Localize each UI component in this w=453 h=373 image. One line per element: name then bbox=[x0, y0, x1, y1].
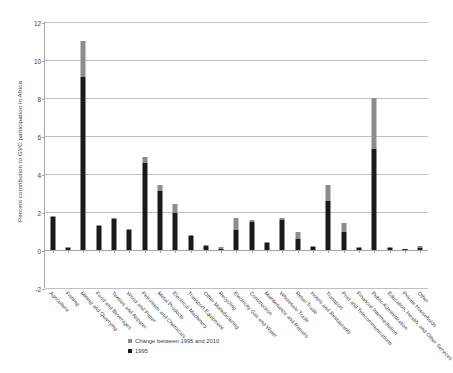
legend-item-change: Change between 1995 and 2010 bbox=[128, 338, 219, 344]
bar-slot bbox=[367, 22, 382, 288]
bar-stack[interactable] bbox=[341, 223, 346, 250]
bar-slot bbox=[321, 22, 336, 288]
bar-stack[interactable] bbox=[326, 185, 331, 250]
x-tick-mark bbox=[359, 250, 360, 253]
bar-slot bbox=[152, 22, 167, 288]
bar-segment-change bbox=[295, 232, 300, 239]
bar-segment-change bbox=[234, 218, 239, 230]
bar-slot bbox=[183, 22, 198, 288]
y-tick-label--2: -2 bbox=[35, 286, 41, 293]
x-axis-label: Education, Health, and Other Services bbox=[386, 290, 453, 361]
bar-stack[interactable] bbox=[127, 229, 132, 250]
bar-segment-1995 bbox=[188, 236, 193, 250]
bar-stack[interactable] bbox=[280, 218, 285, 250]
x-tick-mark bbox=[405, 250, 406, 253]
y-tick-label-8: 8 bbox=[37, 96, 41, 103]
legend-label-change: Change between 1995 and 2010 bbox=[135, 338, 219, 344]
bar-slot bbox=[91, 22, 106, 288]
bar-stack[interactable] bbox=[142, 157, 147, 250]
x-tick-mark bbox=[175, 250, 176, 253]
bar-slot bbox=[397, 22, 412, 288]
plot-area: -2024681012 bbox=[44, 22, 428, 288]
bar-slot bbox=[351, 22, 366, 288]
y-tick-label-10: 10 bbox=[34, 58, 41, 65]
x-tick-mark bbox=[160, 250, 161, 253]
bar-slot bbox=[137, 22, 152, 288]
x-tick-mark bbox=[145, 250, 146, 253]
bar-slot bbox=[168, 22, 183, 288]
bar-slot bbox=[198, 22, 213, 288]
bar-segment-1995 bbox=[50, 217, 55, 250]
y-tick-label-0: 0 bbox=[37, 248, 41, 255]
y-axis-title: Percent contribution to GVC participatio… bbox=[16, 57, 23, 247]
x-tick-mark bbox=[390, 250, 391, 253]
x-tick-mark bbox=[298, 250, 299, 253]
bar-segment-1995 bbox=[111, 219, 116, 250]
bar-stack[interactable] bbox=[234, 218, 239, 250]
x-tick-mark bbox=[236, 250, 237, 253]
bar-slot bbox=[336, 22, 351, 288]
bar-segment-change bbox=[372, 98, 377, 149]
x-tick-mark bbox=[420, 250, 421, 253]
bar-slot bbox=[244, 22, 259, 288]
bar-stack[interactable] bbox=[372, 98, 377, 250]
x-tick-mark bbox=[267, 250, 268, 253]
bar-stack[interactable] bbox=[157, 185, 162, 250]
bar-stack[interactable] bbox=[265, 242, 270, 250]
bar-stack[interactable] bbox=[50, 216, 55, 250]
bar-segment-1995 bbox=[341, 232, 346, 250]
bar-slot bbox=[60, 22, 75, 288]
bar-segment-1995 bbox=[372, 149, 377, 250]
bar-stack[interactable] bbox=[295, 232, 300, 250]
x-axis-label: Other bbox=[417, 290, 431, 304]
bar-segment-1995 bbox=[295, 239, 300, 250]
bar-segment-1995 bbox=[234, 230, 239, 250]
bar-segment-1995 bbox=[96, 226, 101, 250]
x-tick-mark bbox=[68, 250, 69, 253]
bar-segment-1995 bbox=[173, 213, 178, 250]
x-tick-mark bbox=[206, 250, 207, 253]
bar-segment-1995 bbox=[249, 222, 254, 250]
bar-slot bbox=[229, 22, 244, 288]
bar-segment-1995 bbox=[280, 220, 285, 250]
bar-stack[interactable] bbox=[111, 218, 116, 250]
y-tick-label-2: 2 bbox=[37, 210, 41, 217]
y-tick-label-4: 4 bbox=[37, 172, 41, 179]
x-tick-mark bbox=[313, 250, 314, 253]
bar-slot bbox=[290, 22, 305, 288]
bar-segment-change bbox=[81, 41, 86, 77]
bar-slot bbox=[382, 22, 397, 288]
legend-label-1995: 1995 bbox=[135, 348, 148, 354]
bar-stack[interactable] bbox=[188, 235, 193, 250]
x-tick-mark bbox=[191, 250, 192, 253]
bar-segment-1995 bbox=[157, 191, 162, 250]
legend-item-1995: 1995 bbox=[128, 348, 219, 354]
x-tick-mark bbox=[99, 250, 100, 253]
bar-series-container bbox=[45, 22, 428, 288]
bar-segment-change bbox=[173, 204, 178, 213]
bar-stack[interactable] bbox=[173, 204, 178, 250]
bar-segment-1995 bbox=[265, 243, 270, 250]
legend-swatch-1995-icon bbox=[128, 349, 132, 353]
bar-slot bbox=[413, 22, 428, 288]
bar-slot bbox=[76, 22, 91, 288]
bar-slot bbox=[106, 22, 121, 288]
bar-slot bbox=[259, 22, 274, 288]
bar-segment-1995 bbox=[326, 201, 331, 250]
bar-stack[interactable] bbox=[81, 41, 86, 250]
x-tick-mark bbox=[129, 250, 130, 253]
y-tick-label-6: 6 bbox=[37, 134, 41, 141]
x-tick-mark bbox=[114, 250, 115, 253]
bar-slot bbox=[122, 22, 137, 288]
bar-slot bbox=[214, 22, 229, 288]
x-tick-mark bbox=[53, 250, 54, 253]
bar-segment-1995 bbox=[81, 77, 86, 250]
bar-segment-1995 bbox=[127, 230, 132, 250]
bar-slot bbox=[275, 22, 290, 288]
bar-stack[interactable] bbox=[249, 220, 254, 250]
x-tick-mark bbox=[374, 250, 375, 253]
x-tick-mark bbox=[344, 250, 345, 253]
bar-slot bbox=[45, 22, 60, 288]
bar-stack[interactable] bbox=[96, 225, 101, 250]
